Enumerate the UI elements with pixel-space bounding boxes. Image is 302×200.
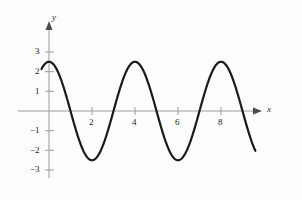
- y-axis-arrowhead: [46, 21, 53, 30]
- x-tick-label-8: 8: [218, 118, 223, 127]
- x-tick-label-6: 6: [175, 118, 180, 127]
- plot-canvas: [0, 0, 302, 200]
- x-tick-label-4: 4: [132, 118, 137, 127]
- x-axis-label: x: [267, 105, 271, 114]
- y-tick-label-1: 1: [35, 87, 40, 96]
- y-tick-label-minus-1: −1: [30, 126, 40, 135]
- function-graph-figure: 3 2 1 −1 −2 −3 2 4 6 8 x y: [0, 0, 302, 200]
- y-tick-label-2: 2: [35, 67, 40, 76]
- x-axis-arrowhead: [253, 108, 262, 115]
- y-tick-label-minus-3: −3: [30, 165, 40, 174]
- y-tick-label-3: 3: [35, 47, 40, 56]
- y-tick-label-minus-2: −2: [30, 146, 40, 155]
- y-axis-label: y: [52, 13, 56, 22]
- x-tick-label-2: 2: [89, 118, 94, 127]
